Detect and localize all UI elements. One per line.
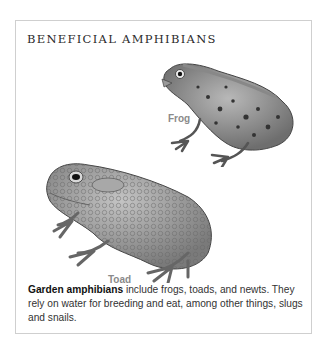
- toad-illustration: [38, 153, 228, 283]
- amphibians-panel: BENEFICIAL AMPHIBIANS Frog: [15, 20, 312, 334]
- frog-label: Frog: [168, 113, 190, 124]
- frog-illustration: [158, 57, 308, 167]
- panel-title: BENEFICIAL AMPHIBIANS: [27, 32, 217, 46]
- caption: Garden amphibians include frogs, toads, …: [28, 283, 308, 325]
- caption-bold: Garden amphibians: [28, 284, 123, 295]
